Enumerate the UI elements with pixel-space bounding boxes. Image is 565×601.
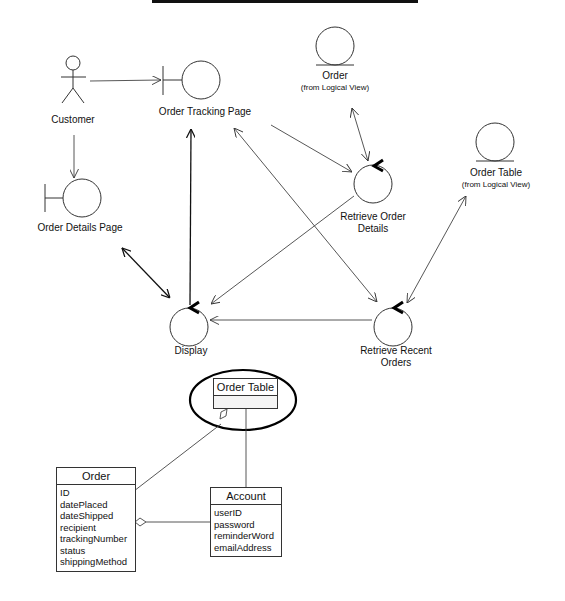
link-display-to-tracking (190, 129, 191, 305)
control-icon-retrieve-recent-orders (374, 302, 412, 346)
link-customer-to-tracking (90, 80, 161, 81)
boundary-icon-order-tracking-page (163, 61, 220, 99)
class-attribute: userID (214, 507, 278, 519)
class-name-account: Account (211, 488, 281, 505)
control-icon-display (170, 302, 208, 346)
entity-label-order: Order (322, 70, 348, 82)
control-label-retrieve-recent-orders-2: Orders (381, 357, 412, 369)
entity-sublabel-order-table: (from Logical View) (462, 180, 530, 190)
relation-ordertable-order (134, 424, 221, 491)
link-retrieve-order-details-to-display (211, 196, 354, 304)
class-name-order-table: Order Table (214, 379, 277, 396)
class-attribute: datePlaced (60, 499, 132, 511)
aggregation-diamond-icon (135, 518, 146, 526)
entity-icon-order-table (476, 123, 514, 161)
class-attribute: ID (60, 487, 132, 499)
entity-label-order-table: Order Table (470, 167, 522, 179)
class-attribute: password (214, 519, 278, 531)
class-box-order-table: Order Table (213, 378, 278, 409)
class-attribute: dateShipped (60, 510, 132, 522)
link-details-to-display (122, 248, 170, 298)
control-label-retrieve-order-details-2: Details (358, 223, 389, 235)
class-attribute: status (60, 545, 132, 557)
class-attribute: reminderWord (214, 530, 278, 542)
class-attribute: emailAddress (214, 542, 278, 554)
control-icon-retrieve-order-details (354, 160, 392, 203)
link-order-table-to-retrieve-recent-orders (407, 196, 466, 303)
class-box-account: Account userID password reminderWord ema… (210, 487, 282, 557)
boundary-icon-order-details-page (45, 179, 101, 217)
link-tracking-to-retrieve-order-details (271, 125, 352, 172)
class-attribute: trackingNumber (60, 533, 132, 545)
entity-icon-order (316, 27, 354, 65)
class-attribute: shippingMethod (60, 556, 132, 568)
control-label-retrieve-order-details-1: Retrieve Order (340, 211, 406, 223)
class-box-order: Order ID datePlaced dateShipped recipien… (56, 467, 136, 572)
link-order-to-retrieve-order-details (352, 108, 368, 161)
class-name-order: Order (57, 468, 135, 485)
boundary-label-order-details-page: Order Details Page (37, 222, 122, 234)
control-label-display: Display (175, 345, 208, 357)
entity-sublabel-order: (from Logical View) (301, 83, 369, 93)
class-attribute: recipient (60, 522, 132, 534)
top-rule (152, 0, 418, 3)
boundary-label-order-tracking-page: Order Tracking Page (159, 106, 251, 118)
class-attributes-empty (214, 396, 277, 408)
customer-actor-icon (61, 56, 86, 103)
actor-label-customer: Customer (51, 114, 94, 126)
aggregation-diamond-icon (220, 409, 227, 419)
control-label-retrieve-recent-orders-1: Retrieve Recent (360, 345, 432, 357)
